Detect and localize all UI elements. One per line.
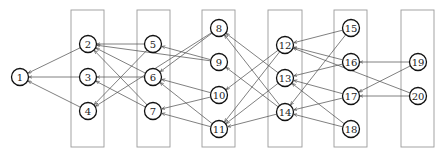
column-box-6 (401, 10, 434, 147)
node-label: 15 (345, 23, 358, 34)
column-boxes (71, 10, 434, 147)
node-18: 18 (343, 121, 360, 138)
node-label: 3 (85, 72, 91, 83)
node-9: 9 (211, 54, 228, 71)
edge-4-to-1 (28, 81, 80, 107)
layered-graph-diagram: 1234567891011121314151617181920 (0, 0, 445, 155)
node-label: 14 (279, 107, 292, 118)
node-14: 14 (277, 104, 294, 121)
edge-15-to-14 (291, 35, 346, 105)
node-label: 17 (345, 91, 358, 102)
node-3: 3 (80, 69, 97, 86)
node-11: 11 (211, 121, 228, 138)
edge-6-to-2 (96, 48, 145, 73)
node-12: 12 (277, 37, 294, 54)
edge-11-to-7 (162, 113, 211, 126)
node-label: 16 (345, 57, 358, 68)
node-label: 1 (17, 72, 23, 83)
node-13: 13 (277, 70, 294, 87)
node-label: 5 (150, 39, 156, 50)
node-19: 19 (410, 54, 427, 71)
nodes: 1234567891011121314151617181920 (12, 20, 427, 138)
node-label: 18 (345, 124, 358, 135)
node-8: 8 (211, 20, 228, 37)
node-label: 11 (213, 124, 226, 135)
edge-8-to-6 (160, 33, 212, 72)
edge-17-to-14 (294, 98, 343, 110)
node-5: 5 (145, 36, 162, 53)
node-label: 6 (150, 72, 156, 83)
node-10: 10 (211, 87, 228, 104)
edge-12-to-10 (226, 50, 278, 89)
node-2: 2 (80, 36, 97, 53)
edge-18-to-14 (294, 114, 343, 127)
node-label: 12 (279, 40, 292, 51)
node-label: 7 (150, 106, 156, 117)
node-label: 20 (412, 91, 425, 102)
node-label: 13 (279, 73, 292, 84)
node-16: 16 (343, 54, 360, 71)
node-label: 9 (216, 57, 222, 68)
edge-12-to-11 (225, 52, 280, 122)
node-15: 15 (343, 20, 360, 37)
node-label: 2 (85, 39, 91, 50)
node-20: 20 (410, 88, 427, 105)
node-label: 19 (412, 57, 425, 68)
node-1: 1 (12, 69, 29, 86)
edge-10-to-6 (162, 79, 211, 92)
node-4: 4 (80, 103, 97, 120)
node-label: 10 (213, 90, 226, 101)
node-label: 8 (216, 23, 222, 34)
edge-2-to-1 (28, 48, 80, 73)
node-17: 17 (343, 88, 360, 105)
edge-7-to-3 (96, 81, 145, 107)
edge-15-to-12 (294, 30, 343, 43)
node-label: 4 (85, 106, 91, 117)
node-7: 7 (145, 103, 162, 120)
edge-10-to-7 (162, 97, 211, 109)
edge-13-to-8 (226, 34, 278, 73)
node-6: 6 (145, 69, 162, 86)
edge-13-to-11 (226, 83, 278, 123)
